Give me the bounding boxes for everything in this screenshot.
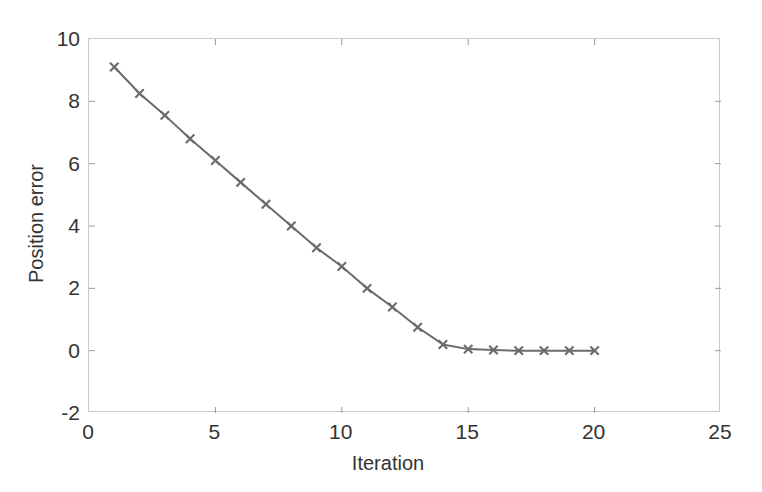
data-point-marker <box>287 222 295 230</box>
x-tick-label-text: 15 <box>456 420 479 444</box>
line-chart-canvas <box>89 39 721 413</box>
data-series-line <box>114 67 594 351</box>
data-point-marker <box>413 323 421 331</box>
x-tick-label-text: 0 <box>82 420 94 444</box>
data-point-marker <box>363 284 371 292</box>
x-tick-label-text: 25 <box>708 420 731 444</box>
data-point-marker <box>236 178 244 186</box>
data-point-marker <box>211 156 219 164</box>
plot-area <box>88 38 720 412</box>
x-tick-label-text: 5 <box>209 420 221 444</box>
x-tick-label-text: 20 <box>582 420 605 444</box>
x-axis-title: Iteration <box>0 452 762 475</box>
data-point-marker <box>388 303 396 311</box>
chart-screenshot: -20246810 0510152025 Iteration Position … <box>0 0 762 492</box>
data-point-marker <box>312 244 320 252</box>
data-point-marker <box>262 200 270 208</box>
y-axis-title: Position error <box>25 104 48 344</box>
x-axis-title-text: Iteration <box>352 452 424 474</box>
x-tick-label-text: 10 <box>329 420 352 444</box>
data-point-marker <box>186 135 194 143</box>
data-point-marker <box>135 89 143 97</box>
data-point-marker <box>338 262 346 270</box>
data-point-marker <box>161 111 169 119</box>
data-point-marker <box>110 63 118 71</box>
